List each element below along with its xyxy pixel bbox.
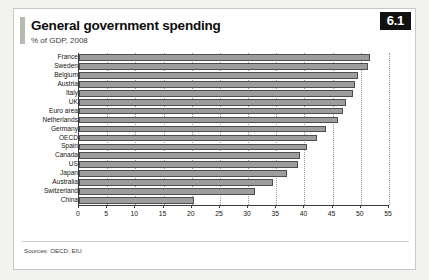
x-tick-label-10: 10 — [131, 211, 139, 218]
x-tick-label-55: 55 — [384, 211, 392, 218]
category-label-japan: Japan — [60, 170, 78, 177]
x-tick-label-50: 50 — [356, 211, 364, 218]
bar-netherlands — [79, 117, 338, 124]
bar-us — [79, 161, 298, 168]
footer-divider — [22, 241, 409, 242]
bar-japan — [79, 170, 287, 177]
x-tick — [106, 205, 107, 208]
chart-card: General government spending % of GDP, 20… — [13, 8, 416, 270]
category-label-netherlands: Netherlands — [42, 117, 78, 124]
category-axis-labels: FranceSwedenBelgiumAustriaItalyUKEuro ar… — [14, 53, 78, 205]
bar-switzerland — [79, 188, 255, 195]
source-note: Sources: OECD; EIU — [24, 247, 82, 254]
bar-germany — [79, 126, 326, 133]
x-tick — [388, 205, 389, 208]
bar-belgium — [79, 72, 358, 79]
category-label-sweden: Sweden — [54, 63, 78, 70]
gridline — [361, 53, 362, 205]
x-tick — [219, 205, 220, 208]
category-label-china: China — [61, 197, 78, 204]
x-tick — [247, 205, 248, 208]
category-label-spain: Spain — [61, 143, 78, 150]
x-tick — [360, 205, 361, 208]
x-tick — [191, 205, 192, 208]
category-label-canada: Canada — [55, 152, 78, 159]
x-tick-label-45: 45 — [328, 211, 336, 218]
x-tick-label-40: 40 — [300, 211, 308, 218]
x-tick-label-15: 15 — [159, 211, 167, 218]
category-label-belgium: Belgium — [54, 72, 78, 79]
bar-uk — [79, 99, 346, 106]
bar-austria — [79, 81, 355, 88]
category-label-austria: Austria — [57, 81, 78, 88]
category-label-euro-area: Euro area — [49, 108, 78, 115]
x-tick — [332, 205, 333, 208]
gridline — [389, 53, 390, 205]
bar-sweden — [79, 63, 368, 70]
category-label-australia: Australia — [52, 179, 78, 186]
bars-container — [78, 53, 389, 205]
chart-plot-area: FranceSwedenBelgiumAustriaItalyUKEuro ar… — [14, 53, 417, 233]
x-tick-label-30: 30 — [243, 211, 251, 218]
x-tick — [303, 205, 304, 208]
x-tick — [163, 205, 164, 208]
bar-china — [79, 197, 194, 204]
x-tick-label-5: 5 — [104, 211, 108, 218]
bar-italy — [79, 90, 353, 97]
x-tick-label-0: 0 — [76, 211, 80, 218]
bar-australia — [79, 179, 273, 186]
figure-number-badge: 6.1 — [380, 12, 411, 30]
title-accent-bar — [20, 17, 25, 44]
bar-spain — [79, 144, 307, 151]
category-label-us: US — [69, 161, 78, 168]
category-label-italy: Italy — [66, 90, 78, 97]
x-tick-label-20: 20 — [187, 211, 195, 218]
chart-subtitle: % of GDP, 2008 — [31, 36, 88, 45]
category-label-france: France — [57, 54, 78, 61]
bar-france — [79, 54, 370, 61]
x-tick — [134, 205, 135, 208]
bar-oecd — [79, 135, 317, 142]
x-tick-label-35: 35 — [271, 211, 279, 218]
category-label-switzerland: Switzerland — [44, 188, 78, 195]
category-label-uk: UK — [69, 99, 78, 106]
page-title: General government spending — [31, 18, 221, 33]
x-tick — [78, 205, 79, 208]
category-label-germany: Germany — [51, 126, 78, 133]
bar-euro-area — [79, 108, 343, 115]
x-axis-line — [78, 205, 389, 206]
bar-canada — [79, 152, 300, 159]
category-label-oecd: OECD — [59, 135, 78, 142]
page-root: General government spending % of GDP, 20… — [0, 0, 429, 280]
x-tick — [275, 205, 276, 208]
x-tick-label-25: 25 — [215, 211, 223, 218]
